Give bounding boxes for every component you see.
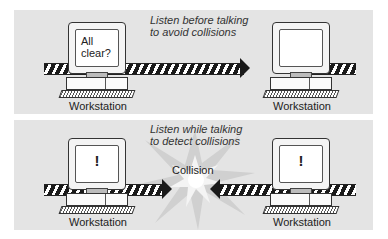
workstation-top-right [262,22,342,102]
computer-base-icon [270,77,332,90]
collision-label: Collision [172,164,214,176]
keyboard-icon [59,90,136,98]
keyboard-icon [263,206,340,214]
computer-base-icon [270,193,332,206]
signal-arrow-right-icon [162,179,172,199]
caption-bottom-line1: Listen while talking [150,123,242,135]
signal-arrow-left-icon [210,179,220,199]
monitor-screen: ! [75,145,119,183]
workstation-top-left: All clear? [58,22,138,102]
alert-exclamation-icon: ! [280,155,322,167]
caption-bottom: Listen while talking to detect collision… [150,123,242,147]
computer-base-icon [66,77,128,90]
keyboard-icon [59,206,136,214]
monitor-icon [272,22,330,74]
workstation-label: Workstation [58,100,138,112]
monitor-screen: ! [279,145,323,183]
computer-base-icon [66,193,128,206]
monitor-icon: ! [68,138,126,190]
caption-bottom-line2: to detect collisions [150,135,242,147]
caption-top-line2: to avoid collisions [150,26,248,38]
workstation-label: Workstation [262,100,342,112]
monitor-icon: ! [272,138,330,190]
workstation-label: Workstation [58,216,138,228]
alert-exclamation-icon: ! [76,155,118,167]
workstation-bottom-right: ! [262,138,342,218]
workstation-label: Workstation [262,216,342,228]
monitor-screen: All clear? [75,29,119,67]
workstation-bottom-left: ! [58,138,138,218]
caption-top-line1: Listen before talking [150,14,248,26]
monitor-screen [279,29,323,67]
keyboard-icon [263,90,340,98]
screen-text-all-clear: All clear? [81,35,115,59]
caption-top: Listen before talking to avoid collision… [150,14,248,38]
monitor-icon: All clear? [68,22,126,74]
signal-arrow-icon [240,58,250,78]
